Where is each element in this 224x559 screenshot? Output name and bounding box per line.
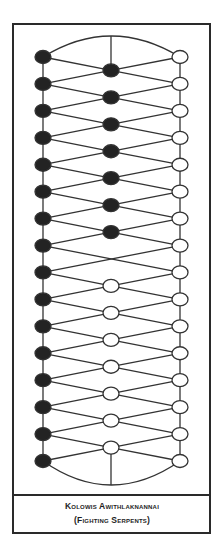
black-piece[interactable] <box>103 199 119 212</box>
diagonal-line <box>111 380 180 393</box>
black-piece[interactable] <box>35 374 51 387</box>
white-piece[interactable] <box>103 279 119 292</box>
black-piece[interactable] <box>103 172 119 185</box>
diagonal-line <box>111 178 180 191</box>
white-piece[interactable] <box>103 333 119 346</box>
diagonal-line <box>111 138 180 151</box>
caption-title: Kolowis Awithlaknannai <box>14 499 210 513</box>
diagonal-line <box>43 97 111 110</box>
diagonal-line <box>111 286 180 299</box>
white-piece[interactable] <box>172 401 188 414</box>
white-piece[interactable] <box>172 51 188 64</box>
diagonal-line <box>43 340 111 353</box>
diagonal-line <box>43 205 111 218</box>
black-piece[interactable] <box>103 118 119 131</box>
black-piece[interactable] <box>35 239 51 252</box>
diagonal-line <box>43 448 111 461</box>
diagonal-line <box>111 97 180 110</box>
white-piece[interactable] <box>172 239 188 252</box>
black-piece[interactable] <box>35 212 51 225</box>
white-piece[interactable] <box>103 360 119 373</box>
diagonal-line <box>43 84 111 97</box>
diagonal-line <box>43 380 111 393</box>
white-piece[interactable] <box>172 266 188 279</box>
black-piece[interactable] <box>35 401 51 414</box>
diagonal-line <box>111 205 180 218</box>
game-board <box>0 0 224 559</box>
white-piece[interactable] <box>172 104 188 117</box>
caption-subtitle: (Fighting Serpents) <box>14 513 210 527</box>
diagonal-line <box>43 138 111 151</box>
diagonal-line <box>111 219 180 232</box>
diagonal-line <box>111 111 180 124</box>
white-piece[interactable] <box>103 441 119 454</box>
diagonal-line <box>43 219 111 232</box>
black-piece[interactable] <box>103 145 119 158</box>
black-piece[interactable] <box>35 455 51 468</box>
diagonal-line <box>111 272 180 285</box>
diagonal-line <box>111 367 180 380</box>
diagonal-line <box>43 313 111 326</box>
diagonal-line <box>43 232 111 245</box>
caption-divider <box>14 494 210 496</box>
white-piece[interactable] <box>172 212 188 225</box>
black-piece[interactable] <box>35 266 51 279</box>
diagonal-line <box>111 326 180 339</box>
diagonal-line <box>43 286 111 299</box>
black-piece[interactable] <box>35 293 51 306</box>
diagonal-line <box>43 192 111 205</box>
diagonal-line <box>111 70 180 83</box>
black-piece[interactable] <box>35 131 51 144</box>
diagonal-line <box>111 165 180 178</box>
white-piece[interactable] <box>172 374 188 387</box>
black-piece[interactable] <box>103 91 119 104</box>
diagonal-line <box>43 367 111 380</box>
black-piece[interactable] <box>35 185 51 198</box>
white-piece[interactable] <box>172 158 188 171</box>
white-piece[interactable] <box>172 320 188 333</box>
diagonal-line <box>111 192 180 205</box>
white-piece[interactable] <box>172 428 188 441</box>
white-piece[interactable] <box>172 293 188 306</box>
white-piece[interactable] <box>172 455 188 468</box>
white-piece[interactable] <box>103 387 119 400</box>
black-piece[interactable] <box>103 226 119 239</box>
diagonal-line <box>43 111 111 124</box>
diagonal-line <box>111 124 180 137</box>
diagonal-line <box>111 299 180 312</box>
diagonal-line <box>111 394 180 407</box>
diagonal-line <box>43 165 111 178</box>
white-piece[interactable] <box>103 414 119 427</box>
black-piece[interactable] <box>35 77 51 90</box>
diagonal-line <box>43 178 111 191</box>
diagonal-line <box>43 394 111 407</box>
black-piece[interactable] <box>35 104 51 117</box>
white-piece[interactable] <box>172 347 188 360</box>
diagonal-line <box>43 326 111 339</box>
black-piece[interactable] <box>35 320 51 333</box>
black-piece[interactable] <box>35 51 51 64</box>
diagonal-line <box>43 57 111 70</box>
white-piece[interactable] <box>103 306 119 319</box>
diagonal-line <box>43 407 111 420</box>
diagonal-line <box>111 232 180 245</box>
diagonal-line <box>111 421 180 434</box>
black-piece[interactable] <box>35 347 51 360</box>
diagonal-line <box>111 151 180 164</box>
diagonal-line <box>111 407 180 420</box>
white-piece[interactable] <box>172 131 188 144</box>
black-piece[interactable] <box>103 64 119 77</box>
diagonal-line <box>111 57 180 70</box>
diagonal-line <box>111 434 180 447</box>
white-piece[interactable] <box>172 77 188 90</box>
white-piece[interactable] <box>172 185 188 198</box>
diagonal-line <box>43 70 111 83</box>
diagonal-line <box>111 448 180 461</box>
diagonal-line <box>43 272 111 285</box>
black-piece[interactable] <box>35 158 51 171</box>
diagonal-line <box>111 340 180 353</box>
black-piece[interactable] <box>35 428 51 441</box>
diagonal-line <box>43 434 111 447</box>
diagonal-line <box>111 353 180 366</box>
diagonal-line <box>43 151 111 164</box>
